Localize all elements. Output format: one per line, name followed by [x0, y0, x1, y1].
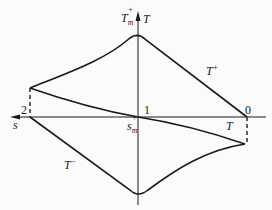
sm-plus-label: s+m [127, 120, 137, 132]
t-plus-curve-label: T+ [206, 64, 218, 77]
tm-plus-label: T+m [121, 12, 133, 24]
diagram-canvas [0, 0, 272, 210]
point-0-label: 0 [245, 104, 251, 116]
torque-slip-diagram: T+m T 2 s 1 0 s+m T+ T T− [0, 0, 272, 210]
point-1-label: 1 [144, 104, 150, 116]
vertical-axis-arrow-icon [136, 11, 141, 21]
t-minus-curve-label: T− [64, 158, 76, 171]
point-2-label: 2 [21, 104, 27, 116]
vertical-axis-label: T [143, 13, 150, 25]
horizontal-axis-label: s [13, 119, 18, 131]
t-curve-label: T [226, 120, 233, 132]
